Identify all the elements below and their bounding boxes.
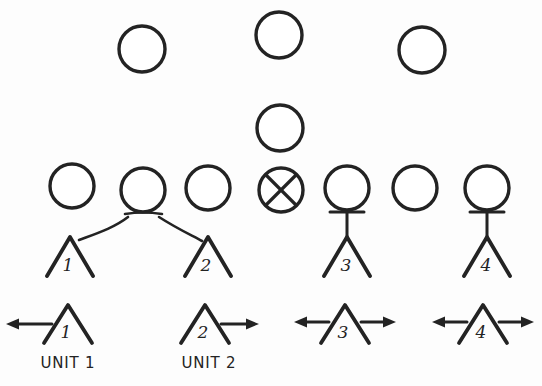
- tent-lower-3-left-arrow-head: [294, 317, 307, 328]
- row-node-6-empty-circle-icon[interactable]: [393, 166, 437, 210]
- tent-lower-3[interactable]: 3: [294, 305, 396, 343]
- tent-lower-1-left-arrow-icon: [6, 319, 52, 330]
- top-node-1-empty-circle-icon[interactable]: [119, 26, 165, 72]
- tent-lower-1-unit-label: UNIT 1: [41, 354, 96, 372]
- tent-lower-2-number: 2: [197, 322, 209, 342]
- row-node-7-empty-circle-icon[interactable]: [465, 166, 509, 210]
- main-node-row: [50, 164, 509, 212]
- mid-node-1-empty-circle-icon[interactable]: [257, 105, 303, 151]
- connector-node2-to-tent1: [79, 217, 128, 240]
- top-node-2-empty-circle-icon[interactable]: [256, 12, 302, 58]
- tent-lower-2-right-arrow-head: [246, 319, 259, 330]
- row-node-1-empty-circle-icon[interactable]: [50, 164, 94, 208]
- tent-upper-3-number: 3: [341, 255, 352, 275]
- fork-bar-crossbar: [125, 213, 162, 215]
- fork-bar-node2: [125, 213, 162, 215]
- tent-lower-3-right-arrow-icon: [361, 317, 396, 328]
- tent-upper-1-number: 1: [63, 255, 74, 275]
- tent-lower-2[interactable]: 2 UNIT 2: [181, 305, 259, 372]
- connector-node2-to-tent2: [159, 217, 202, 241]
- tent-lower-2-unit-label: UNIT 2: [182, 354, 237, 372]
- tent-lower-4-right-arrow-icon: [499, 317, 534, 328]
- tent-lower-4-right-arrow-head: [521, 317, 534, 328]
- tent-lower-4[interactable]: 4: [432, 305, 534, 343]
- tent-lower-4-number: 4: [475, 322, 487, 342]
- tent-lower-3-right-arrow-head: [383, 317, 396, 328]
- tent-lower-2-right-arrow-icon: [221, 319, 259, 330]
- tent-upper-4-number: 4: [480, 255, 492, 275]
- tent-upper-2[interactable]: 2: [185, 237, 231, 276]
- tent-lower-1-number: 1: [61, 322, 72, 342]
- mid-node-row: [257, 105, 303, 151]
- upper-tent-row: 1 2 3 4: [47, 237, 510, 276]
- hand-drawn-diagram-svg: 1 2 3 4 1: [0, 0, 542, 386]
- tent-upper-1[interactable]: 1: [47, 237, 93, 276]
- row-node-5-empty-circle-icon[interactable]: [325, 166, 369, 210]
- tent-upper-2-number: 2: [200, 255, 212, 275]
- tent-lower-4-left-arrow-head: [432, 317, 445, 328]
- tent-upper-4[interactable]: 4: [464, 237, 510, 276]
- connector-curve-group: [79, 217, 202, 241]
- tent-lower-3-number: 3: [338, 322, 349, 342]
- row-node-4-crossed-circle-icon[interactable]: [259, 168, 303, 212]
- row-node-2-empty-circle-icon[interactable]: [121, 168, 165, 212]
- tent-lower-1[interactable]: 1 UNIT 1: [6, 305, 95, 372]
- tent-lower-4-left-arrow-icon: [432, 317, 467, 328]
- tent-lower-3-left-arrow-icon: [294, 317, 329, 328]
- top-node-3-empty-circle-icon[interactable]: [399, 27, 445, 73]
- tee-stem-node7: [470, 212, 504, 236]
- lower-tent-row: 1 UNIT 1 2 UNIT 2 3: [6, 305, 534, 372]
- tent-upper-3[interactable]: 3: [324, 237, 370, 276]
- tent-lower-1-left-arrow-head: [6, 319, 19, 330]
- tee-stem-node5: [330, 212, 364, 236]
- tee-stem-group: [330, 212, 504, 236]
- top-node-row: [119, 12, 445, 73]
- sketch-diagram-canvas: 1 2 3 4 1: [0, 0, 542, 386]
- row-node-3-empty-circle-icon[interactable]: [186, 166, 230, 210]
